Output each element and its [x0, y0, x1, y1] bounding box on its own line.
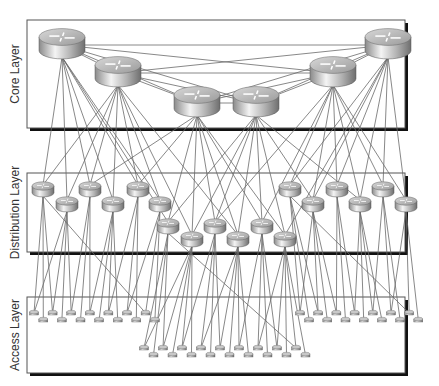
- network-hierarchy-diagram: Core LayerDistribution LayerAccess Layer: [0, 0, 439, 386]
- access-layer-label: Access Layer: [8, 299, 22, 371]
- access-switch-29: [140, 345, 149, 350]
- access-switch-46: [301, 352, 310, 357]
- access-switch-42: [263, 352, 272, 357]
- access-switch-17: [314, 310, 323, 315]
- access-switch-33: [178, 345, 187, 350]
- distribution-router-3: [79, 182, 101, 197]
- core-router-4: [233, 87, 279, 117]
- access-switch-37: [216, 345, 225, 350]
- access-layer-frame: [27, 297, 408, 376]
- access-switch-1: [30, 310, 39, 315]
- access-switch-20: [341, 317, 350, 322]
- distribution-router-17: [372, 182, 394, 197]
- distribution-router-10: [227, 232, 249, 247]
- access-switch-32: [168, 352, 177, 357]
- access-switch-26: [396, 317, 405, 322]
- access-switch-6: [76, 317, 85, 322]
- core-router-6: [365, 29, 411, 59]
- access-switch-18: [323, 317, 332, 322]
- distribution-router-18: [395, 197, 417, 212]
- access-switch-21: [350, 310, 359, 315]
- access-switch-19: [332, 310, 341, 315]
- distribution-access-link: [192, 246, 193, 355]
- access-switch-3: [48, 310, 57, 315]
- distribution-layer-label: Distribution Layer: [8, 166, 22, 259]
- access-switch-41: [254, 345, 263, 350]
- access-switch-5: [67, 310, 76, 315]
- access-switch-13: [141, 310, 150, 315]
- access-switch-12: [132, 317, 141, 322]
- access-switch-10: [113, 317, 122, 322]
- access-switch-31: [159, 345, 168, 350]
- distribution-router-8: [181, 232, 203, 247]
- access-switch-43: [273, 345, 282, 350]
- distribution-router-9: [204, 219, 226, 234]
- access-switch-40: [244, 352, 253, 357]
- access-switch-16: [305, 317, 314, 322]
- core-router-5: [310, 57, 356, 87]
- layer-labels: Core LayerDistribution LayerAccess Layer: [8, 44, 22, 371]
- access-switch-45: [292, 345, 301, 350]
- access-switch-9: [104, 310, 113, 315]
- access-switch-39: [235, 345, 244, 350]
- access-switch-44: [282, 352, 291, 357]
- distribution-router-1: [32, 182, 54, 197]
- distribution-router-5: [127, 182, 149, 197]
- distribution-router-14: [302, 197, 324, 212]
- core-router-3: [174, 87, 220, 117]
- distribution-router-2: [56, 197, 78, 212]
- access-switch-2: [39, 317, 48, 322]
- distribution-router-13: [279, 182, 301, 197]
- distribution-router-11: [251, 219, 273, 234]
- distribution-router-12: [274, 232, 296, 247]
- distribution-router-7: [157, 219, 179, 234]
- access-switch-28: [414, 317, 423, 322]
- access-switch-36: [206, 352, 215, 357]
- core-router-1: [39, 29, 85, 59]
- access-switch-27: [405, 310, 414, 315]
- access-switch-11: [123, 310, 132, 315]
- access-switch-7: [85, 310, 94, 315]
- access-switch-34: [187, 352, 196, 357]
- access-switch-4: [57, 317, 66, 322]
- core-router-2: [95, 57, 141, 87]
- access-switch-22: [359, 317, 368, 322]
- access-switch-38: [225, 352, 234, 357]
- distribution-router-15: [326, 182, 348, 197]
- distribution-router-16: [349, 197, 371, 212]
- access-switch-23: [368, 310, 377, 315]
- distribution-router-4: [102, 197, 124, 212]
- access-switch-35: [197, 345, 206, 350]
- access-switch-8: [95, 317, 104, 322]
- access-switch-24: [377, 317, 386, 322]
- access-switch-14: [150, 317, 159, 322]
- access-switch-30: [149, 352, 158, 357]
- access-switch-15: [296, 310, 305, 315]
- distribution-router-6: [149, 197, 171, 212]
- core-layer-label: Core Layer: [8, 44, 22, 103]
- access-switch-25: [387, 310, 396, 315]
